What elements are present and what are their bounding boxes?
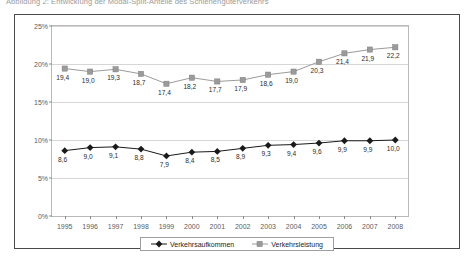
data-point-marker bbox=[87, 144, 94, 151]
x-axis-tick-mark bbox=[65, 216, 66, 219]
chart-frame: 0%5%10%15%20%25% 19951996199719981999200… bbox=[14, 14, 460, 249]
x-axis-tick-mark bbox=[268, 216, 269, 219]
x-axis-tick-mark bbox=[141, 216, 142, 219]
x-axis-tick-label: 2002 bbox=[235, 223, 251, 230]
x-axis-tick-label: 1995 bbox=[57, 223, 73, 230]
chart-legend: VerkehrsaufkommenVerkehrsleistung bbox=[140, 237, 334, 251]
x-axis-tick-mark bbox=[344, 216, 345, 219]
data-label: 20,3 bbox=[311, 67, 324, 74]
y-axis-tick-label: 20% bbox=[34, 61, 48, 68]
data-label: 8,4 bbox=[185, 157, 194, 164]
data-point-marker bbox=[214, 148, 221, 155]
data-point-marker bbox=[164, 81, 169, 86]
x-axis-tick-label: 2000 bbox=[184, 223, 200, 230]
data-point-marker bbox=[112, 143, 119, 150]
data-label: 9,1 bbox=[109, 152, 118, 159]
data-label: 18,2 bbox=[183, 83, 196, 90]
data-point-marker bbox=[61, 147, 68, 154]
data-label: 17,7 bbox=[209, 86, 222, 93]
x-axis-tick-mark bbox=[90, 216, 91, 219]
x-axis-tick-mark bbox=[370, 216, 371, 219]
data-label: 19,4 bbox=[56, 74, 69, 81]
x-axis-tick-mark bbox=[217, 216, 218, 219]
x-axis-tick-label: 2004 bbox=[286, 223, 302, 230]
data-label: 22,2 bbox=[387, 52, 400, 59]
y-axis-tick-label: 5% bbox=[38, 175, 48, 182]
data-label: 21,4 bbox=[336, 58, 349, 65]
data-point-marker bbox=[138, 71, 143, 76]
data-point-marker bbox=[291, 69, 296, 74]
data-point-marker bbox=[240, 77, 245, 82]
data-point-marker bbox=[342, 51, 347, 56]
data-label: 19,0 bbox=[285, 77, 298, 84]
series-lines bbox=[52, 26, 408, 216]
data-point-marker bbox=[88, 69, 93, 74]
data-label: 8,9 bbox=[236, 153, 245, 160]
data-point-marker bbox=[341, 137, 348, 144]
data-label: 8,8 bbox=[134, 154, 143, 161]
legend-marker-diamond-icon bbox=[151, 240, 167, 248]
data-point-marker bbox=[62, 66, 67, 71]
y-axis-tick-label: 10% bbox=[34, 137, 48, 144]
data-label: 8,5 bbox=[211, 156, 220, 163]
x-axis-tick-mark bbox=[166, 216, 167, 219]
x-axis-tick-mark bbox=[192, 216, 193, 219]
data-point-marker bbox=[290, 141, 297, 148]
data-label: 19,3 bbox=[107, 74, 120, 81]
x-axis-tick-label: 2001 bbox=[209, 223, 225, 230]
figure-caption: Abbildung 2: Entwicklung der Modal-Split… bbox=[6, 0, 269, 6]
data-point-marker bbox=[366, 137, 373, 144]
x-axis-tick-label: 1997 bbox=[108, 223, 124, 230]
x-axis-tick-label: 2005 bbox=[311, 223, 327, 230]
legend-label: Verkehrsleistung bbox=[271, 241, 323, 248]
x-axis-tick-mark bbox=[243, 216, 244, 219]
data-point-marker bbox=[367, 47, 372, 52]
x-axis-tick-mark bbox=[319, 216, 320, 219]
data-label: 8,6 bbox=[58, 156, 67, 163]
legend-item[interactable]: Verkehrsaufkommen bbox=[151, 240, 234, 248]
data-point-marker bbox=[189, 75, 194, 80]
data-point-marker bbox=[239, 145, 246, 152]
x-axis-tick-label: 1999 bbox=[159, 223, 175, 230]
x-axis-tick-mark bbox=[116, 216, 117, 219]
data-point-marker bbox=[265, 142, 272, 149]
data-label: 18,6 bbox=[260, 80, 273, 87]
x-axis-tick-label: 2008 bbox=[387, 223, 403, 230]
x-axis-tick-label: 2007 bbox=[362, 223, 378, 230]
data-label: 21,9 bbox=[361, 55, 374, 62]
x-axis-tick-label: 1996 bbox=[82, 223, 98, 230]
legend-marker-square-icon bbox=[252, 240, 268, 248]
data-label: 9,9 bbox=[363, 146, 372, 153]
legend-item[interactable]: Verkehrsleistung bbox=[252, 240, 323, 248]
y-axis-tick-label: 0% bbox=[38, 213, 48, 220]
data-point-marker bbox=[316, 140, 323, 147]
legend-label: Verkehrsaufkommen bbox=[170, 241, 234, 248]
data-point-marker bbox=[188, 149, 195, 156]
data-point-marker bbox=[393, 45, 398, 50]
x-axis-tick-mark bbox=[395, 216, 396, 219]
data-point-marker bbox=[113, 67, 118, 72]
data-label: 9,6 bbox=[312, 148, 321, 155]
data-label: 9,4 bbox=[287, 150, 296, 157]
data-label: 9,9 bbox=[338, 146, 347, 153]
data-label: 9,0 bbox=[84, 153, 93, 160]
data-label: 7,9 bbox=[160, 161, 169, 168]
plot-area: 0%5%10%15%20%25% 19951996199719981999200… bbox=[51, 25, 409, 217]
data-point-marker bbox=[392, 137, 399, 144]
data-label: 19,0 bbox=[82, 77, 95, 84]
x-axis-tick-label: 2003 bbox=[260, 223, 276, 230]
x-axis-tick-label: 2006 bbox=[337, 223, 353, 230]
data-point-marker bbox=[163, 153, 170, 160]
data-point-marker bbox=[215, 79, 220, 84]
y-axis-tick-label: 15% bbox=[34, 99, 48, 106]
x-axis-tick-label: 1998 bbox=[133, 223, 149, 230]
data-point-marker bbox=[266, 72, 271, 77]
data-label: 17,9 bbox=[234, 85, 247, 92]
y-axis-tick-label: 25% bbox=[34, 23, 48, 30]
data-label: 10,0 bbox=[387, 145, 400, 152]
data-point-marker bbox=[316, 59, 321, 64]
data-label: 18,7 bbox=[133, 79, 146, 86]
x-axis-tick-mark bbox=[294, 216, 295, 219]
data-label: 9,3 bbox=[262, 150, 271, 157]
data-point-marker bbox=[138, 146, 145, 153]
